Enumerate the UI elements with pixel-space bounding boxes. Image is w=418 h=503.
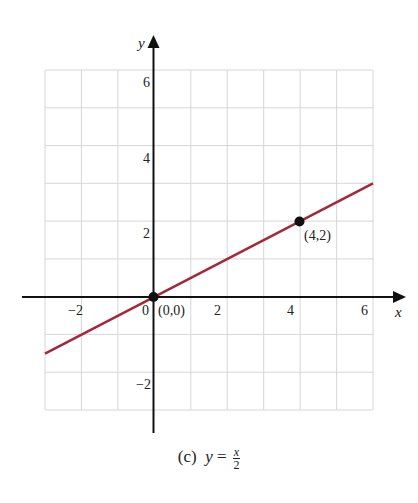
caption-prefix: (c) bbox=[178, 447, 197, 466]
tick-y-neg2: −2 bbox=[136, 377, 151, 392]
caption-denominator: 2 bbox=[233, 459, 240, 471]
x-axis-label: x bbox=[394, 304, 402, 320]
series-line bbox=[45, 183, 373, 353]
tick-y-4: 4 bbox=[143, 151, 150, 166]
point-origin-label: (0,0) bbox=[158, 303, 185, 319]
caption-fraction: x 2 bbox=[233, 446, 240, 471]
tick-x-0: 0 bbox=[142, 303, 149, 318]
tick-x-2: 2 bbox=[214, 303, 221, 318]
tick-x-4: 4 bbox=[287, 303, 294, 318]
caption-eq: = bbox=[217, 447, 227, 466]
tick-x-neg2: −2 bbox=[68, 303, 83, 318]
y-axis-arrow-icon bbox=[148, 35, 160, 48]
point-4-2 bbox=[295, 217, 305, 227]
y-axis-label: y bbox=[136, 35, 145, 51]
tick-y-6: 6 bbox=[143, 75, 150, 90]
axes bbox=[22, 35, 406, 433]
chart-caption: (c) y = x 2 bbox=[0, 446, 418, 471]
tick-y-2: 2 bbox=[143, 226, 150, 241]
point-origin bbox=[149, 292, 159, 302]
caption-lhs: y bbox=[205, 447, 213, 466]
x-axis-arrow-icon bbox=[393, 291, 406, 303]
tick-x-6: 6 bbox=[361, 303, 368, 318]
chart-canvas: −2 0 2 4 6 6 4 2 −2 x y (0,0) (4,2) bbox=[0, 0, 418, 503]
point-4-2-label: (4,2) bbox=[304, 228, 331, 244]
